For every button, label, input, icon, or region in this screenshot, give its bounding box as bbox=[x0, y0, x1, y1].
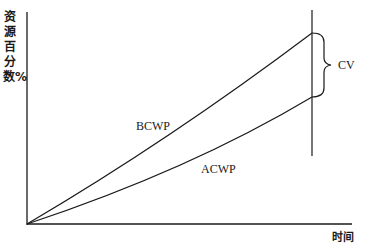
bcwp-label: BCWP bbox=[136, 119, 170, 134]
acwp-curve bbox=[27, 97, 312, 224]
earned-value-diagram bbox=[0, 0, 368, 246]
x-axis-label: 时间 bbox=[332, 228, 354, 244]
cv-label: CV bbox=[338, 58, 355, 73]
acwp-label: ACWP bbox=[201, 162, 236, 177]
cv-brace bbox=[312, 33, 331, 97]
y-axis-label: 资源百分数% bbox=[3, 10, 17, 85]
